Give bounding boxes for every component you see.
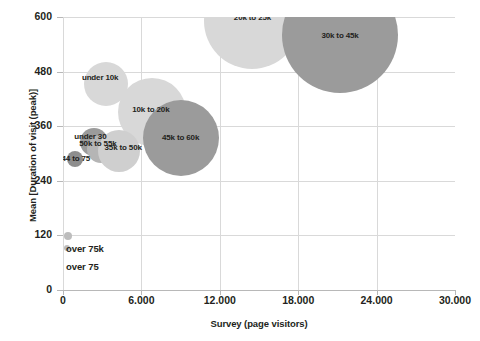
x-tick-mark [220, 290, 221, 295]
x-tick-label: 6.000 [106, 294, 176, 306]
bubble-point[interactable] [64, 232, 72, 240]
gridline-horizontal [63, 181, 455, 182]
gridline-vertical [141, 17, 142, 290]
bubble-point-label: 20k to 25k [212, 17, 292, 22]
y-tick-label: 120 [12, 228, 52, 240]
x-tick-mark [298, 290, 299, 295]
y-tick-label: 240 [12, 174, 52, 186]
bubble-point-label: 10k to 20k [111, 105, 191, 114]
y-tick-label: 480 [12, 65, 52, 77]
outside-point-label: over 75k [66, 243, 104, 254]
bubble-point-label: 44 to 75 [63, 154, 116, 163]
x-axis-line [63, 290, 456, 291]
bubble-point-label: 35k to 50k [83, 143, 163, 152]
x-tick-label: 0 [28, 294, 98, 306]
plot-area: 20k to 25k30k to 45kunder 10k10k to 20k4… [63, 17, 455, 290]
x-tick-mark [63, 290, 64, 295]
x-tick-label: 18.000 [263, 294, 333, 306]
x-tick-mark [377, 290, 378, 295]
x-tick-label: 24.000 [342, 294, 412, 306]
x-axis-title: Survey (page visitors) [63, 318, 455, 329]
bubble-chart: Mean [Duration of visit (peak)] Survey (… [0, 0, 480, 341]
x-tick-label: 30.000 [420, 294, 480, 306]
bubble-point-label: under 10k [63, 73, 140, 82]
outside-point-label: over 75 [66, 261, 99, 272]
y-tick-label: 600 [12, 10, 52, 22]
x-tick-label: 12.000 [185, 294, 255, 306]
x-tick-mark [455, 290, 456, 295]
y-tick-label: 360 [12, 119, 52, 131]
x-tick-mark [141, 290, 142, 295]
gridline-horizontal [63, 235, 455, 236]
bubble-point-label: 30k to 45k [300, 31, 380, 40]
bubble-point[interactable] [282, 17, 398, 93]
bubble-point-label: 45k to 60k [141, 133, 221, 142]
